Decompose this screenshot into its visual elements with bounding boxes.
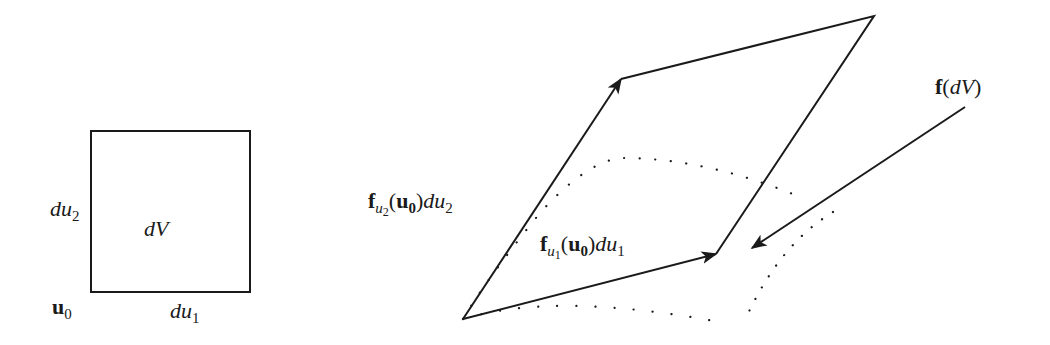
du1-label-sub: 1: [192, 310, 200, 326]
fu1-tail: du: [595, 231, 617, 256]
fu1-arg: u: [568, 231, 580, 256]
u0-label-sub: 0: [64, 306, 72, 322]
curved-image-region: [463, 158, 800, 319]
du1-label: du1: [170, 300, 200, 322]
fu2-tail: du: [423, 188, 445, 213]
vector-fu1-arrow: [463, 254, 716, 319]
fu2-arg: u: [396, 188, 408, 213]
vector-fu2-label: fu2(u0)du2: [368, 190, 453, 212]
dv-label: dV: [144, 218, 168, 240]
parallelogram-far-edges: [621, 16, 874, 254]
du2-label-base: du: [50, 196, 72, 221]
fu2-arg-sub: 0: [408, 200, 416, 216]
fu1-arg-sub: 0: [580, 243, 588, 259]
fu1-sub-base: u: [547, 243, 555, 259]
image-fdv-label: f(dV): [935, 76, 981, 98]
u0-label-base: u: [52, 294, 64, 319]
du1-label-base: du: [170, 298, 192, 323]
du2-label-sub: 2: [72, 208, 80, 224]
fu2-tail-sub: 2: [445, 200, 453, 216]
du2-label: du2: [50, 198, 80, 220]
fu1-tail-sub: 1: [617, 243, 625, 259]
curved-image-region-right: [745, 212, 833, 320]
u0-label: u0: [52, 296, 72, 318]
fdv-arg: dV: [950, 74, 974, 99]
volume-element-square: [91, 131, 250, 292]
vector-fu2-arrow: [463, 79, 621, 319]
diagram-canvas: [0, 0, 1050, 345]
fdv-open-paren: (: [942, 74, 949, 99]
vector-fu1-label: fu1(u0)du1: [540, 233, 625, 255]
image-pointer-arrow: [752, 107, 965, 248]
fu2-sub-base: u: [375, 200, 383, 216]
fdv-close-paren: ): [974, 74, 981, 99]
